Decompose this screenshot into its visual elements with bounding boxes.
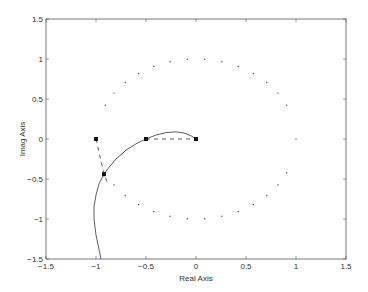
x-tick-label: 1: [294, 262, 299, 271]
unit-circle-dots: [105, 59, 297, 220]
y-axis-label: Imag Axis: [18, 122, 27, 157]
plot-area: [94, 59, 297, 259]
x-tick-label: −1: [91, 262, 101, 271]
pole-markers: [94, 137, 198, 176]
y-tick-label: 1: [39, 55, 44, 64]
pole-marker-icon: [194, 137, 198, 141]
pole-marker-icon: [94, 137, 98, 141]
pole-marker-icon: [102, 172, 106, 176]
root-locus-branch: [94, 132, 196, 259]
y-tick-label: −1: [34, 215, 44, 224]
y-tick-labels: −1.5−1−0.500.511.5: [27, 15, 43, 264]
x-axis-label: Real Axis: [179, 274, 212, 283]
x-tick-label: 0.5: [240, 262, 252, 271]
root-locus-chart: −1.5−1−0.500.511.5 −1.5−1−0.500.511.5 Re…: [0, 0, 368, 292]
y-tick-label: 0: [39, 135, 44, 144]
x-tick-label: 0: [194, 262, 199, 271]
x-tick-label: 1.5: [340, 262, 352, 271]
x-tick-labels: −1.5−1−0.500.511.5: [38, 262, 352, 271]
x-tick-label: −0.5: [138, 262, 154, 271]
y-tick-label: 1.5: [32, 15, 44, 24]
pole-marker-icon: [144, 137, 148, 141]
y-tick-label: −0.5: [27, 175, 43, 184]
y-tick-label: 0.5: [32, 95, 44, 104]
dashed-left-segment: [96, 139, 108, 184]
y-tick-label: −1.5: [27, 255, 43, 264]
